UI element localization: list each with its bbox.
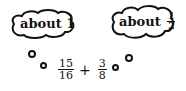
- thought-bubble-large-right: [125, 54, 133, 62]
- thought-bubble-small-right: [112, 64, 119, 71]
- estimate-label-right: about 1 2: [119, 12, 175, 31]
- fraction-term-2: 3 8: [98, 58, 107, 81]
- estimate-value: 1: [66, 16, 75, 31]
- estimate-fraction: 1 2: [167, 12, 175, 31]
- about-text: about: [119, 14, 161, 29]
- fraction-term-1: 15 16: [58, 58, 74, 81]
- estimate-label-left: about 1: [20, 16, 75, 31]
- about-text: about: [20, 16, 62, 31]
- denominator-1: 16: [59, 70, 73, 81]
- thought-cloud-left: about 1: [8, 8, 76, 40]
- thought-bubble-small-left: [40, 62, 47, 69]
- thought-bubble-large-left: [28, 50, 36, 58]
- thought-cloud-right: about 1 2: [108, 4, 176, 40]
- plus-operator: +: [79, 62, 91, 78]
- fraction-expression: 15 16 + 3 8: [56, 58, 107, 81]
- fraction-denominator: 2: [168, 22, 174, 31]
- denominator-2: 8: [99, 70, 106, 81]
